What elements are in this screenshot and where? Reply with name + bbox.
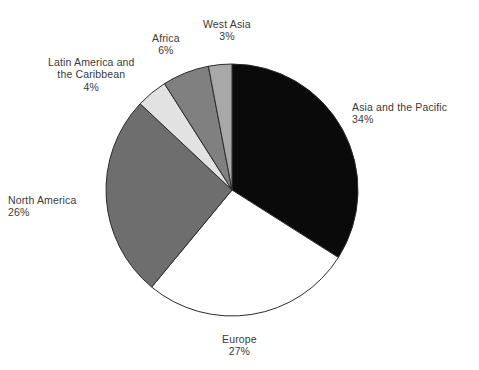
slice-label-latin-america-line2: the Caribbean <box>48 68 135 80</box>
slice-label-west-asia: West Asia 3% <box>203 18 251 43</box>
slice-label-asia-and-the-pacific: Asia and the Pacific 34% <box>352 101 447 126</box>
slice-label-europe-name: Europe <box>222 333 257 345</box>
slice-label-north-america: North America 26% <box>8 194 76 219</box>
slice-label-africa-name: Africa <box>152 32 180 44</box>
slice-label-africa: Africa 6% <box>152 32 180 57</box>
slice-label-latin-america-line1: Latin America and <box>48 56 135 68</box>
slice-label-north-america-name: North America <box>8 194 76 206</box>
slice-label-asia-and-the-pacific-name: Asia and the Pacific <box>352 101 447 113</box>
pie-slice-group <box>106 64 358 316</box>
slice-label-latin-america-and-the-caribbean: Latin America and the Caribbean 4% <box>48 56 135 93</box>
slice-label-europe-value: 27% <box>222 345 257 357</box>
slice-label-latin-america-value: 4% <box>48 81 135 93</box>
slice-label-europe: Europe 27% <box>222 333 257 358</box>
slice-label-asia-and-the-pacific-value: 34% <box>352 113 447 125</box>
slice-label-west-asia-name: West Asia <box>203 18 251 30</box>
slice-label-west-asia-value: 3% <box>203 30 251 42</box>
slice-label-africa-value: 6% <box>152 44 180 56</box>
slice-label-north-america-value: 26% <box>8 206 76 218</box>
pie-chart-figure: Asia and the Pacific 34% Europe 27% Nort… <box>0 0 479 370</box>
